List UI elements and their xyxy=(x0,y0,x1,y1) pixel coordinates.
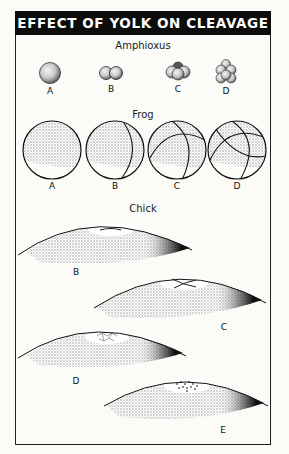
diagram-artwork xyxy=(0,0,289,454)
amphioxus-8cell-d xyxy=(216,60,236,84)
chick-label-d: D xyxy=(68,376,84,386)
frog-label-a: A xyxy=(44,181,60,191)
chick-blastodisc-d xyxy=(18,330,186,367)
section-title-frog: Frog xyxy=(83,109,203,120)
chick-label-c: C xyxy=(216,322,232,332)
amphioxus-label-a: A xyxy=(42,86,58,96)
frog-egg-d xyxy=(205,110,275,180)
frog-label-b: B xyxy=(107,181,123,191)
amphioxus-2cell-b xyxy=(100,67,123,80)
amphioxus-label-b: B xyxy=(103,84,119,94)
chick-blastodisc-c xyxy=(94,276,266,318)
section-title-chick: Chick xyxy=(83,203,203,214)
section-title-amphioxus: Amphioxus xyxy=(83,40,203,51)
frog-egg-b xyxy=(83,110,153,179)
chick-label-e: E xyxy=(215,425,231,435)
amphioxus-label-d: D xyxy=(218,86,234,96)
amphioxus-label-c: C xyxy=(170,84,186,94)
frog-egg-c xyxy=(145,110,215,180)
frog-egg-a xyxy=(20,110,90,179)
chick-blastodisc-e xyxy=(104,379,268,419)
chick-blastodisc-b xyxy=(18,224,192,263)
frog-label-d: D xyxy=(229,181,245,191)
amphioxus-4cell-c xyxy=(166,62,190,80)
frog-label-c: C xyxy=(169,181,185,191)
chick-label-b: B xyxy=(68,267,84,277)
amphioxus-egg-a xyxy=(40,63,61,84)
